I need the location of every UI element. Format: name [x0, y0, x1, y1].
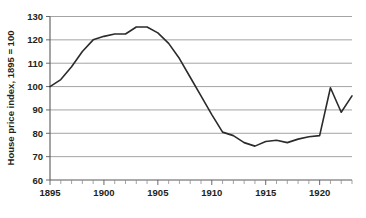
x-tick-label-1900: 1900	[93, 187, 114, 198]
y-tick-label-80: 80	[32, 128, 43, 139]
x-tick-label-1905: 1905	[147, 187, 169, 198]
x-tick-label-1915: 1915	[255, 187, 277, 198]
y-tick-label-90: 90	[32, 104, 43, 115]
y-axis-title: House price index, 1895 = 100	[5, 31, 16, 166]
chart-container: 60708090100110120130 1895190019051910191…	[0, 0, 366, 218]
x-tick-label-1910: 1910	[201, 187, 222, 198]
chart-background	[0, 0, 366, 218]
y-tick-label-60: 60	[32, 175, 43, 186]
x-tick-label-1920: 1920	[309, 187, 330, 198]
y-tick-label-130: 130	[27, 11, 43, 22]
y-tick-label-70: 70	[32, 151, 43, 162]
house-price-index-line-chart: 60708090100110120130 1895190019051910191…	[0, 0, 366, 218]
y-tick-label-110: 110	[28, 58, 43, 69]
y-tick-label-120: 120	[27, 34, 43, 45]
y-tick-label-100: 100	[27, 81, 43, 92]
x-tick-label-1895: 1895	[39, 187, 61, 198]
